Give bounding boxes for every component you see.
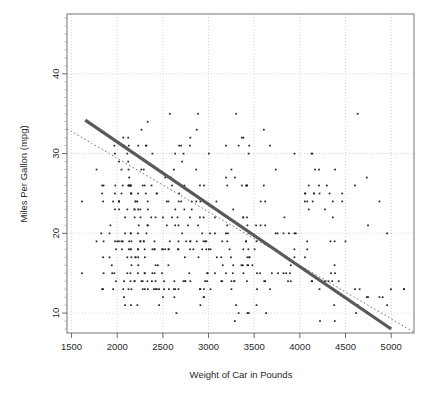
x-tick-label: 4500	[335, 341, 356, 352]
x-tick-label: 2000	[107, 341, 128, 352]
plot-canvas: 1500200025003000350040004500500010203040…	[0, 0, 434, 399]
y-tick-label: 20	[50, 228, 61, 239]
y-tick-label: 30	[50, 148, 61, 159]
y-tick-label: 40	[50, 69, 61, 80]
x-tick-label: 3000	[198, 341, 219, 352]
x-tick-label: 5000	[381, 341, 402, 352]
x-tick-label: 4000	[289, 341, 310, 352]
x-axis-title: Weight of Car in Pounds	[190, 369, 293, 380]
scatter-plot-figure: 1500200025003000350040004500500010203040…	[0, 0, 434, 399]
x-tick-label: 3500	[244, 341, 265, 352]
y-tick-label: 10	[50, 308, 61, 319]
x-tick-label: 2500	[152, 341, 173, 352]
figure-background	[0, 0, 434, 399]
x-tick-label: 1500	[61, 341, 82, 352]
y-axis-title: Miles Per Gallon (mpg)	[18, 125, 29, 222]
